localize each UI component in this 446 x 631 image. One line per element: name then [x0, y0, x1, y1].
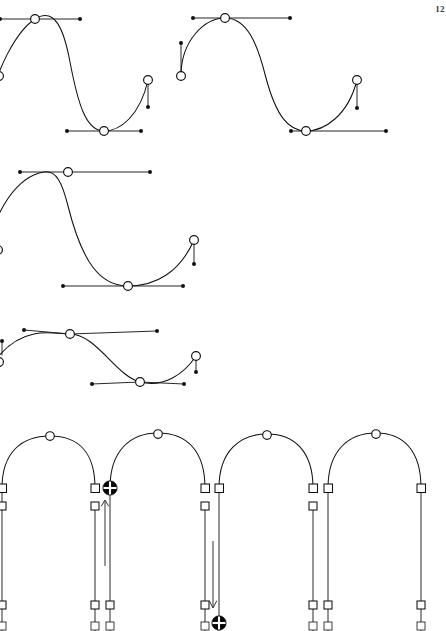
arch-apex-anchor[interactable] [46, 432, 55, 441]
control-handle-arm [92, 382, 140, 384]
clipped-bottom-square[interactable] [91, 622, 99, 630]
corner-anchor-square[interactable] [91, 502, 99, 510]
stem-end-square[interactable] [417, 601, 425, 609]
control-handle-dot[interactable] [192, 262, 196, 266]
corner-anchor-square[interactable] [0, 484, 7, 493]
clipped-bottom-square[interactable] [201, 622, 209, 630]
figure-row-1-right [177, 14, 388, 136]
control-handle-dot[interactable] [288, 16, 292, 20]
anchor-point[interactable] [136, 378, 145, 387]
bezier-curve-path [0, 172, 194, 286]
clipped-bottom-square[interactable] [324, 622, 332, 630]
anchor-point[interactable] [66, 330, 75, 339]
anchor-point[interactable] [353, 76, 362, 85]
corner-anchor-square[interactable] [309, 484, 318, 493]
anchor-point[interactable] [190, 236, 199, 245]
control-handle-dot[interactable] [0, 17, 2, 21]
arch-apex-anchor[interactable] [263, 431, 272, 440]
bezier-curve-path [0, 15, 148, 131]
control-handle-dot[interactable] [155, 329, 159, 333]
corner-anchor-square[interactable] [91, 484, 100, 493]
anchor-point[interactable] [144, 76, 153, 85]
arch-outline-path [328, 433, 421, 488]
stem-end-square[interactable] [91, 601, 99, 609]
control-handle-dot[interactable] [384, 129, 388, 133]
control-handle-dot[interactable] [355, 106, 359, 110]
clipped-bottom-square[interactable] [309, 622, 317, 630]
control-handle-dot[interactable] [146, 105, 150, 109]
anchor-point-clipped[interactable] [0, 246, 2, 255]
corner-anchor-square[interactable] [309, 502, 317, 510]
arch-outline-path [110, 433, 205, 488]
control-handle-dot[interactable] [182, 382, 186, 386]
bezier-curve-path [0, 333, 196, 384]
clipped-bottom-square[interactable] [0, 622, 6, 630]
stem-end-square[interactable] [201, 601, 209, 609]
anchor-point-clipped[interactable] [0, 358, 3, 367]
figure-row-3 [0, 328, 200, 386]
stem-end-square[interactable] [309, 601, 317, 609]
corner-anchor-square[interactable] [417, 484, 426, 493]
figure-row-1-left [0, 15, 152, 136]
anchor-point[interactable] [192, 352, 201, 361]
corner-anchor-square[interactable] [324, 484, 333, 493]
control-handle-dot[interactable] [194, 370, 198, 374]
control-handle-dot[interactable] [289, 129, 293, 133]
control-handle-dot[interactable] [65, 129, 69, 133]
control-handle-dot[interactable] [148, 170, 152, 174]
control-handle-dot[interactable] [191, 16, 195, 20]
control-handle-arm [70, 331, 157, 334]
corner-anchor-square[interactable] [215, 484, 224, 493]
control-handle-dot[interactable] [139, 129, 143, 133]
anchor-point[interactable] [100, 127, 109, 136]
anchor-point[interactable] [124, 282, 133, 291]
corner-anchor-square[interactable] [201, 484, 210, 493]
control-handle-arm [24, 330, 70, 334]
corner-anchor-square[interactable] [0, 502, 6, 510]
control-handle-dot[interactable] [18, 170, 22, 174]
stem-end-square[interactable] [106, 601, 114, 609]
anchor-point-clipped[interactable] [0, 72, 3, 81]
anchor-point[interactable] [64, 168, 73, 177]
arch-apex-anchor[interactable] [154, 430, 163, 439]
arch-apex-anchor[interactable] [372, 430, 381, 439]
control-handle-dot[interactable] [181, 284, 185, 288]
arch-outline-path [219, 434, 313, 488]
control-handle-dot[interactable] [90, 382, 94, 386]
clipped-bottom-square[interactable] [106, 622, 114, 630]
anchor-point[interactable] [221, 14, 230, 23]
stem-end-square[interactable] [324, 601, 332, 609]
corner-anchor-square[interactable] [201, 502, 209, 510]
control-handle-dot[interactable] [78, 17, 82, 21]
stem-end-square[interactable] [0, 601, 6, 609]
clipped-bottom-square[interactable] [417, 622, 425, 630]
bezier-curve-path [181, 18, 357, 131]
anchor-point[interactable] [177, 72, 186, 81]
control-handle-dot[interactable] [22, 328, 26, 332]
selected-point-marker[interactable] [212, 616, 226, 630]
bezier-figures-illustration [0, 0, 446, 631]
figure-row-2 [0, 168, 198, 291]
selected-point-marker[interactable] [103, 481, 117, 495]
figure-row-4-arch-series [0, 430, 426, 631]
control-handle-dot[interactable] [0, 339, 4, 343]
arch-outline-path [2, 436, 95, 488]
anchor-point[interactable] [31, 15, 40, 24]
control-handle-dot[interactable] [179, 41, 183, 45]
anchor-point[interactable] [302, 127, 311, 136]
control-handle-dot[interactable] [61, 284, 65, 288]
page-canvas: 12 [0, 0, 446, 631]
